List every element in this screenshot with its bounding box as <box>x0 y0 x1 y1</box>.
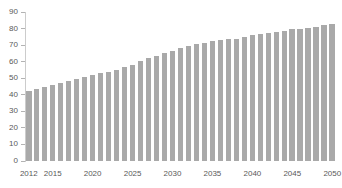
bar-2031 <box>178 48 184 161</box>
bar-2040 <box>250 35 256 161</box>
bar-2020 <box>90 75 96 161</box>
y-tick-label-90: 90 <box>0 8 18 16</box>
x-tick-label-2012: 2012 <box>20 169 38 178</box>
y-tick-label-80: 80 <box>0 25 18 33</box>
bar-2034 <box>202 43 208 161</box>
bar-2037 <box>226 39 232 161</box>
y-tick-20 <box>21 127 25 128</box>
bar-2017 <box>66 81 72 161</box>
bar-2025 <box>130 65 136 161</box>
chart-area: 0102030405060708090 20122015202020252030… <box>0 0 342 188</box>
bar-2044 <box>282 31 288 161</box>
bar-2018 <box>74 79 80 161</box>
x-tick-label-2025: 2025 <box>124 169 142 178</box>
bar-2032 <box>186 46 192 161</box>
y-tick-label-30: 30 <box>0 107 18 115</box>
bar-chart-figure: 0102030405060708090 20122015202020252030… <box>0 0 342 188</box>
x-tick-label-2020: 2020 <box>84 169 102 178</box>
y-tick-30 <box>21 111 25 112</box>
bar-2013 <box>34 89 40 161</box>
bar-2029 <box>162 53 168 161</box>
plot-area <box>26 12 335 161</box>
bar-2023 <box>114 70 120 161</box>
bar-2024 <box>122 67 128 161</box>
y-tick-70 <box>21 45 25 46</box>
bar-2041 <box>258 34 264 161</box>
bar-2042 <box>266 33 272 161</box>
bar-2022 <box>106 72 112 161</box>
y-tick-label-50: 50 <box>0 74 18 82</box>
bar-2046 <box>297 29 303 161</box>
bar-2014 <box>42 87 48 161</box>
bar-2021 <box>98 73 104 161</box>
y-tick-0 <box>21 161 25 162</box>
y-tick-label-60: 60 <box>0 58 18 66</box>
bar-2016 <box>58 83 64 161</box>
y-tick-label-40: 40 <box>0 91 18 99</box>
bar-2045 <box>289 29 295 161</box>
y-tick-50 <box>21 78 25 79</box>
bar-2038 <box>234 39 240 162</box>
bar-2030 <box>170 51 176 161</box>
y-tick-80 <box>21 28 25 29</box>
bar-2049 <box>321 25 327 161</box>
bar-2019 <box>82 77 88 161</box>
bar-2027 <box>146 58 152 161</box>
x-tick-label-2040: 2040 <box>243 169 261 178</box>
bar-2033 <box>194 44 200 161</box>
bar-2035 <box>210 41 216 161</box>
y-tick-60 <box>21 61 25 62</box>
y-tick-90 <box>21 12 25 13</box>
bar-series <box>26 12 335 161</box>
x-tick-label-2030: 2030 <box>164 169 182 178</box>
bar-2012 <box>26 91 32 161</box>
x-tick-label-2035: 2035 <box>203 169 221 178</box>
bar-2050 <box>329 24 335 161</box>
y-tick-label-0: 0 <box>0 157 18 165</box>
x-tick-label-2045: 2045 <box>283 169 301 178</box>
bar-2026 <box>138 61 144 161</box>
y-tick-10 <box>21 144 25 145</box>
y-tick-40 <box>21 94 25 95</box>
y-tick-label-10: 10 <box>0 140 18 148</box>
y-tick-label-70: 70 <box>0 41 18 49</box>
y-tick-label-20: 20 <box>0 124 18 132</box>
bar-2048 <box>313 27 319 161</box>
bar-2047 <box>305 28 311 161</box>
bar-2043 <box>274 32 280 161</box>
bar-2028 <box>154 56 160 161</box>
x-tick-label-2050: 2050 <box>323 169 341 178</box>
x-tick-label-2015: 2015 <box>44 169 62 178</box>
bar-2015 <box>50 85 56 161</box>
bar-2039 <box>242 37 248 161</box>
bar-2036 <box>218 40 224 161</box>
